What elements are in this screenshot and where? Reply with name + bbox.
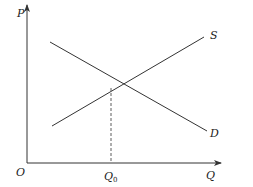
supply-label: S [210, 29, 218, 42]
y-axis-label: P [16, 7, 25, 20]
q0-subscript: 0 [113, 176, 117, 184]
supply-curve [52, 37, 204, 126]
origin-label: O [16, 166, 25, 179]
supply-demand-diagram: P Q O S D Q0 [0, 0, 253, 187]
x-axis-label: Q [206, 169, 215, 182]
q0-main: Q [104, 170, 113, 183]
demand-curve [50, 42, 207, 131]
equilibrium-quantity-label: Q0 [104, 170, 118, 184]
demand-label: D [209, 127, 219, 140]
